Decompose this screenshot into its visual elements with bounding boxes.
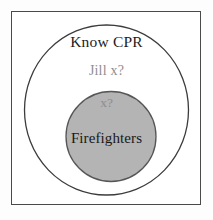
venn-diagram-figure: Know CPR Jill x? x? Firefighters [0,0,213,220]
annotation-jill-x: Jill x? [0,64,213,78]
annotation-inner-x: x? [0,96,213,110]
inner-set-label: Firefighters [0,131,213,146]
outer-set-label: Know CPR [0,34,213,50]
